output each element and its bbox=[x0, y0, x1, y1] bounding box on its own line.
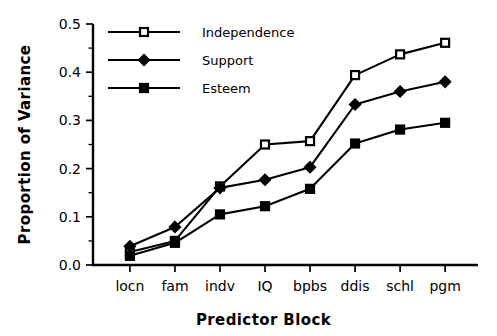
data-point-esteem-schl bbox=[396, 126, 404, 134]
x-tick-label-ddis: ddis bbox=[341, 278, 370, 294]
x-tick-label-IQ: IQ bbox=[257, 278, 272, 294]
legend-marker-diamond bbox=[139, 55, 149, 65]
y-tick-label: 0.5 bbox=[59, 16, 81, 32]
data-point-independence-pgm bbox=[441, 39, 449, 47]
legend-label-independence: Independence bbox=[202, 25, 294, 40]
x-tick-label-locn: locn bbox=[115, 278, 144, 294]
data-point-esteem-ddis bbox=[351, 140, 359, 148]
legend: IndependenceSupportEsteem bbox=[108, 25, 294, 96]
data-point-esteem-fam bbox=[171, 239, 179, 247]
legend-label-esteem: Esteem bbox=[202, 81, 251, 96]
y-tick-label: 0.2 bbox=[59, 161, 81, 177]
x-tick-label-schl: schl bbox=[386, 278, 414, 294]
legend-label-support: Support bbox=[202, 53, 253, 68]
series-line-independence bbox=[130, 43, 445, 252]
data-point-support-IQ bbox=[260, 175, 270, 185]
x-tick-label-fam: fam bbox=[161, 278, 188, 294]
x-tick-label-indv: indv bbox=[205, 278, 235, 294]
legend-marker-filled-square bbox=[140, 84, 148, 92]
x-tick-label-bpbs: bpbs bbox=[293, 278, 327, 294]
series-support bbox=[125, 77, 450, 251]
y-axis-ticks: 0.00.10.20.30.40.5 bbox=[59, 16, 93, 273]
data-point-support-schl bbox=[395, 86, 405, 96]
data-point-independence-schl bbox=[396, 50, 404, 58]
x-tick-label-pgm: pgm bbox=[429, 278, 460, 294]
data-point-esteem-IQ bbox=[261, 202, 269, 210]
legend-marker-open-square bbox=[140, 28, 148, 36]
y-axis-title: Proportion of Variance bbox=[16, 45, 34, 245]
y-tick-label: 0.0 bbox=[59, 257, 81, 273]
data-point-esteem-bpbs bbox=[306, 185, 314, 193]
data-point-independence-ddis bbox=[351, 71, 359, 79]
legend-item-esteem[interactable]: Esteem bbox=[108, 81, 251, 96]
line-chart-canvas: 0.00.10.20.30.40.5locnfamindvIQbpbsddiss… bbox=[0, 0, 497, 336]
y-tick-label: 0.4 bbox=[59, 64, 81, 80]
data-point-support-pgm bbox=[440, 77, 450, 87]
x-axis-title: Predictor Block bbox=[196, 311, 332, 329]
data-point-esteem-indv bbox=[216, 210, 224, 218]
y-tick-label: 0.1 bbox=[59, 209, 81, 225]
legend-item-support[interactable]: Support bbox=[108, 53, 253, 68]
y-tick-label: 0.3 bbox=[59, 112, 81, 128]
data-point-independence-IQ bbox=[261, 141, 269, 149]
series-line-support bbox=[130, 82, 445, 246]
data-point-esteem-pgm bbox=[441, 119, 449, 127]
series-esteem bbox=[126, 119, 449, 260]
x-axis-ticks: locnfamindvIQbpbsddisschlpgm bbox=[115, 265, 460, 294]
legend-item-independence[interactable]: Independence bbox=[108, 25, 294, 40]
chart-figure: 0.00.10.20.30.40.5locnfamindvIQbpbsddiss… bbox=[0, 0, 497, 336]
data-point-esteem-locn bbox=[126, 252, 134, 260]
data-point-independence-bpbs bbox=[306, 137, 314, 145]
